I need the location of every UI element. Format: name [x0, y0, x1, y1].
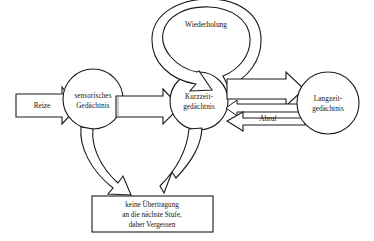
- short-term-memory-label-line1: Kurzzeit-: [185, 93, 214, 101]
- sensory-memory-label-line1: sensorisches: [74, 92, 111, 100]
- forgetting-box-label-line2: an die nächste Stufe,: [122, 211, 182, 219]
- forgetting-box-label-line3: daher Vergessen: [129, 221, 176, 229]
- rehearsal-loop-label: Wiederholung: [185, 20, 227, 29]
- retrieval-arrow-label: Abruf: [259, 114, 277, 123]
- arrow-sensory-to-forgetting: [81, 127, 131, 195]
- forgetting-box-label-line1: keine Übertragung: [125, 200, 179, 209]
- long-term-memory-label-line2: gedächtnis: [312, 105, 344, 113]
- arrow-short-term-to-forgetting: [160, 128, 202, 193]
- short-term-memory-label-line2: gedächtnis: [183, 103, 215, 111]
- node-long-term-memory: [297, 72, 359, 134]
- sensory-memory-label-line2: Gedächtnis: [76, 102, 109, 110]
- long-term-memory-label-line1: Langzeit-: [314, 95, 343, 103]
- memory-model-diagram: sensorisches Gedächtnis Kurzzeit- gedäch…: [0, 0, 374, 241]
- diagram-canvas: sensorisches Gedächtnis Kurzzeit- gedäch…: [0, 0, 374, 241]
- stimuli-arrow-label: Reize: [34, 101, 51, 110]
